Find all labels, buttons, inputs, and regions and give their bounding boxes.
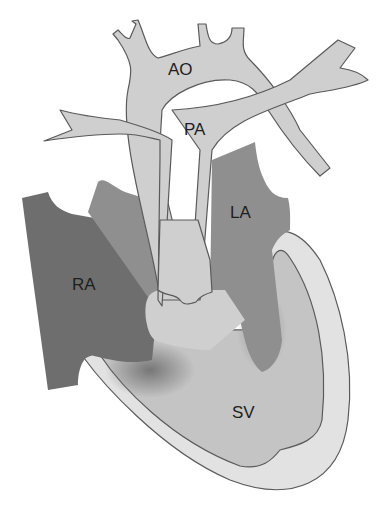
right-atrium-shading [105,342,195,398]
label-left-atrium: LA [230,203,251,222]
label-right-atrium: RA [72,275,96,294]
label-pulmonary-artery: PA [184,120,206,139]
left-atrium-shading [237,290,287,370]
label-aorta: AO [168,60,193,79]
label-single-ventricle: SV [232,403,255,422]
heart-diagram: AO PA LA RA SV [0,0,383,510]
